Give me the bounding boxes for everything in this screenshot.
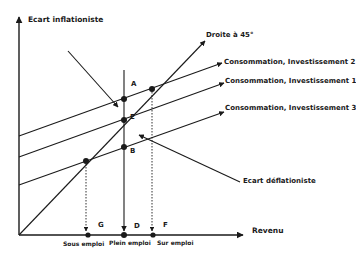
tick-over-employment: Sur emploi [157, 240, 194, 246]
tick-under-employment: Sous emploi [63, 241, 104, 247]
label-point-E: E [130, 114, 135, 121]
tick-full-employment: Plein emploi [109, 240, 151, 246]
label-line-45: Droite à 45° [206, 32, 253, 39]
label-deflationary-gap: Ecart déflationiste [243, 178, 316, 185]
point-A [121, 96, 127, 102]
label-point-F: F [163, 222, 168, 229]
label-point-D: D [134, 223, 140, 230]
x-axis-label: Revenu [252, 227, 284, 235]
point-B [121, 144, 127, 150]
point-F [150, 232, 155, 237]
line-ci-2 [19, 63, 222, 136]
label-ci-3: Consommation, Investissement 3 [225, 105, 356, 112]
label-point-G: G [98, 222, 104, 229]
label-ci-1: Consommation, Investissement 1 [225, 78, 356, 85]
point-D [121, 232, 127, 238]
point-G [85, 232, 90, 237]
label-point-A: A [131, 81, 136, 88]
point-over-intersection [149, 86, 155, 92]
line-45-degree [19, 41, 205, 235]
deflationary-gap-arrow [139, 135, 240, 182]
point-under-intersection [83, 158, 89, 164]
label-point-B: B [130, 148, 135, 155]
keynesian-cross-diagram [0, 0, 356, 258]
label-ci-2: Consommation, Investissement 2 [224, 59, 355, 66]
point-E [121, 117, 127, 123]
y-axis-label: Ecart inflationiste [28, 16, 103, 24]
inflationary-gap-arrow [68, 51, 118, 107]
